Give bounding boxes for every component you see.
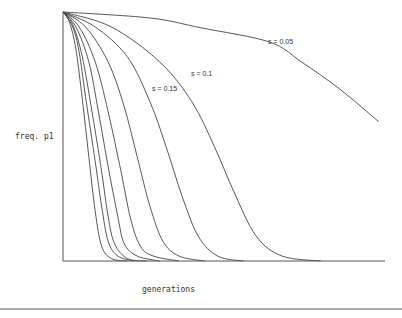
label-s-0-15: s = 0.15 — [152, 85, 177, 92]
x-axis-label: generations — [142, 285, 195, 294]
curve-curve-1 — [63, 12, 127, 261]
label-s-0-1: s = 0.1 — [191, 70, 212, 77]
curve-curve-6 — [63, 12, 205, 261]
chart-canvas: freq. p1 generations s = 0.05 s = 0.1 s … — [0, 0, 402, 318]
curve-s-0-15 — [63, 12, 243, 261]
label-s-0-05: s = 0.05 — [268, 38, 293, 45]
curves-group — [63, 12, 379, 261]
curve-curve-2 — [63, 12, 134, 261]
y-axis-label: freq. p1 — [15, 132, 54, 141]
